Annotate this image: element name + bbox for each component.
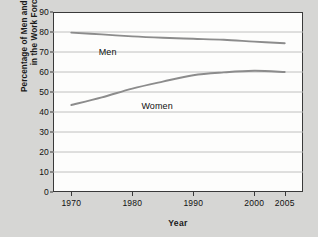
y-tick-label: 70 bbox=[39, 47, 49, 57]
x-tick-mark bbox=[193, 192, 194, 196]
x-tick-mark bbox=[254, 192, 255, 196]
series-label-women: Women bbox=[141, 101, 172, 111]
y-tick-label: 40 bbox=[39, 107, 49, 117]
series-line-men bbox=[71, 33, 284, 44]
series-lines bbox=[71, 33, 284, 105]
chart-figure: Percentage of Men and Women in the Work … bbox=[0, 0, 318, 237]
y-tick-mark bbox=[50, 72, 53, 73]
y-tick-mark bbox=[50, 132, 53, 133]
y-tick-mark bbox=[50, 192, 53, 193]
y-tick-mark bbox=[50, 32, 53, 33]
y-axis-title-line-1: Percentage of Men and Women bbox=[20, 0, 31, 92]
x-tick-label: 1980 bbox=[122, 198, 142, 208]
y-tick-label: 20 bbox=[39, 147, 49, 157]
y-tick-label: 30 bbox=[39, 127, 49, 137]
series-label-men: Men bbox=[99, 47, 117, 57]
y-tick-mark bbox=[50, 52, 53, 53]
y-tick-label: 0 bbox=[44, 187, 49, 197]
series-line-women bbox=[71, 71, 284, 105]
gridlines bbox=[53, 32, 303, 172]
y-tick-mark bbox=[50, 152, 53, 153]
x-axis-title: Year bbox=[53, 218, 303, 228]
y-axis-title: Percentage of Men and Women in the Work … bbox=[16, 0, 44, 120]
plot-canvas bbox=[53, 12, 303, 192]
x-tick-mark bbox=[71, 192, 72, 196]
x-tick-label: 1990 bbox=[183, 198, 203, 208]
y-tick-mark bbox=[50, 12, 53, 13]
x-tick-label: 2000 bbox=[244, 198, 264, 208]
x-tick-label: 1970 bbox=[61, 198, 81, 208]
y-tick-mark bbox=[50, 92, 53, 93]
x-tick-mark bbox=[285, 192, 286, 196]
x-tick-label: 2005 bbox=[275, 198, 295, 208]
plot-area: 9080706050403020100 19701980199020002005… bbox=[53, 12, 303, 192]
y-tick-label: 90 bbox=[39, 7, 49, 17]
y-tick-label: 60 bbox=[39, 67, 49, 77]
y-tick-label: 80 bbox=[39, 27, 49, 37]
y-tick-mark bbox=[50, 172, 53, 173]
x-tick-mark bbox=[132, 192, 133, 196]
y-tick-label: 50 bbox=[39, 87, 49, 97]
y-tick-mark bbox=[50, 112, 53, 113]
y-tick-label: 10 bbox=[39, 167, 49, 177]
